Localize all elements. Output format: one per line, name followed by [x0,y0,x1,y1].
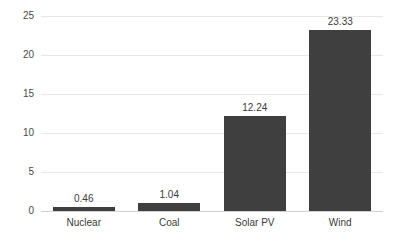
bar-slot-nuclear: 0.46 [41,16,127,211]
bar-value-label-solar-pv: 12.24 [242,102,267,113]
x-axis: Nuclear Coal Solar PV Wind [41,216,383,236]
y-tick-label-15: 15 [6,89,34,99]
x-tick-label-wind: Wind [298,216,384,230]
y-tick-label-5: 5 [6,167,34,177]
chart-title-cropped [0,0,395,4]
y-tick-label-20: 20 [6,50,34,60]
bar-solar-pv[interactable] [224,116,286,211]
bar-value-label-wind: 23.33 [328,16,353,27]
bar-coal[interactable] [138,203,200,211]
bar-nuclear[interactable] [53,207,115,211]
x-tick-label-coal: Coal [127,216,213,230]
y-axis: 25 20 15 10 5 0 [0,16,34,211]
x-tick-label-solar-pv: Solar PV [212,216,298,230]
x-tick-label-nuclear: Nuclear [41,216,127,230]
bar-chart: 25 20 15 10 5 0 0.46 1.04 12.24 23.33 Nu… [0,0,395,244]
chart-title-text [0,0,395,3]
bar-slot-coal: 1.04 [127,16,213,211]
bar-value-label-coal: 1.04 [160,189,179,200]
gridline-0 [41,211,383,212]
bar-series: 0.46 1.04 12.24 23.33 [41,16,383,211]
bar-wind[interactable] [309,30,371,211]
y-tick-label-25: 25 [6,11,34,21]
bar-slot-wind: 23.33 [298,16,384,211]
bar-slot-solar-pv: 12.24 [212,16,298,211]
y-tick-label-0: 0 [6,206,34,216]
bar-value-label-nuclear: 0.46 [74,193,93,204]
y-tick-label-10: 10 [6,128,34,138]
